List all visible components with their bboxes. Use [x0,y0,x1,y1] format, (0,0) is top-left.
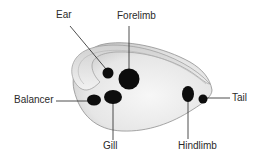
hindlimb-spot [182,86,194,102]
gill-spot [104,90,122,104]
forelimb-spot [119,69,140,90]
gill-label: Gill [103,141,117,151]
embryo-diagram: Ear Forelimb Balancer Gill Hindlimb Tail [0,0,265,165]
hindlimb-label: Hindlimb [178,141,217,151]
balancer-spot [87,95,101,106]
embryo-illustration [0,0,265,165]
tail-label: Tail [232,93,247,103]
tail-spot [199,95,208,104]
forelimb-label: Forelimb [117,11,156,21]
ear-label: Ear [56,10,72,20]
balancer-label: Balancer [14,95,53,105]
ear-spot [103,68,114,79]
